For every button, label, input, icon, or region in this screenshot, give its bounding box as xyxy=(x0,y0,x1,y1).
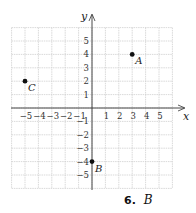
coordinate-plane: xy −5−4−3−2−11234554321−1−2−3−4−5 ABC xyxy=(0,0,196,213)
x-tick-label: −3 xyxy=(47,111,60,121)
answer-text: B xyxy=(144,193,153,207)
x-tick-label: −5 xyxy=(20,111,33,121)
point-c xyxy=(23,79,28,84)
x-tick-label: 1 xyxy=(104,111,109,121)
point-b xyxy=(90,159,95,164)
y-tick-label: −3 xyxy=(76,143,89,153)
y-tick-label: 5 xyxy=(84,36,89,46)
y-tick-label: 4 xyxy=(84,49,89,59)
point-label-b: B xyxy=(94,163,102,174)
answer-caption: 6. B xyxy=(124,193,153,207)
y-tick-label: −5 xyxy=(76,170,89,180)
x-tick-label: −2 xyxy=(60,111,73,121)
x-tick-label: 5 xyxy=(157,111,162,121)
problem-number: 6. xyxy=(124,194,136,207)
y-tick-label: −2 xyxy=(76,130,89,140)
y-tick-label: −1 xyxy=(76,116,89,126)
y-tick-label: 1 xyxy=(84,90,89,100)
y-axis-label: y xyxy=(80,10,88,23)
point-label-c: C xyxy=(28,82,36,93)
x-tick-label: 3 xyxy=(130,111,135,121)
y-tick-label: −4 xyxy=(76,157,89,167)
point-a xyxy=(130,52,135,57)
x-tick-label: 4 xyxy=(144,111,149,121)
point-label-a: A xyxy=(134,55,142,66)
y-tick-label: 2 xyxy=(84,76,89,86)
x-axis-label: x xyxy=(183,110,190,123)
x-tick-label: 2 xyxy=(117,111,122,121)
x-tick-label: −4 xyxy=(33,111,46,121)
y-tick-label: 3 xyxy=(84,63,89,73)
